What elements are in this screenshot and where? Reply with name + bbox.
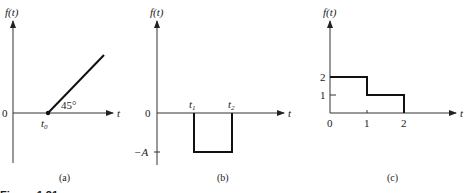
neg-level-label: −A — [134, 146, 148, 158]
x-tick-label-2: 2 — [401, 117, 407, 129]
angle-label: 45° — [61, 99, 76, 111]
x-tick-label-1: 1 — [364, 117, 370, 129]
y-tick-label-1: 1 — [320, 89, 326, 101]
y-axis-label: f(t) — [323, 6, 337, 19]
pulse — [194, 113, 232, 152]
panel-caption: (b) — [217, 172, 229, 184]
origin-label: 0 — [145, 107, 151, 119]
x-axis-label: t — [117, 107, 121, 119]
figure: f(t) t 0 t0 45° (a) f(t) t 0 −A t1 t2 (b… — [0, 0, 470, 193]
x-tick-label-0: 0 — [327, 117, 333, 129]
x-axis-label: t — [288, 107, 292, 119]
t0-point — [46, 111, 50, 115]
figure-caption: Figure 1.31 — [0, 189, 58, 193]
panel-caption: (c) — [387, 172, 398, 184]
t0-label: t0 — [41, 117, 48, 131]
t2-label: t2 — [228, 98, 235, 112]
panel-c: f(t) t 2 1 0 1 2 (c) — [320, 6, 464, 184]
panel-a: f(t) t 0 t0 45° (a) — [2, 6, 121, 184]
staircase — [330, 77, 404, 113]
t1-label: t1 — [189, 98, 196, 112]
y-axis-label: f(t) — [150, 6, 164, 19]
y-axis-label: f(t) — [5, 6, 19, 19]
origin-label: 0 — [2, 107, 8, 119]
panel-caption: (a) — [59, 172, 70, 184]
x-axis-label: t — [460, 107, 464, 119]
panel-b: f(t) t 0 −A t1 t2 (b) — [134, 6, 292, 184]
y-tick-label-2: 2 — [320, 71, 326, 83]
